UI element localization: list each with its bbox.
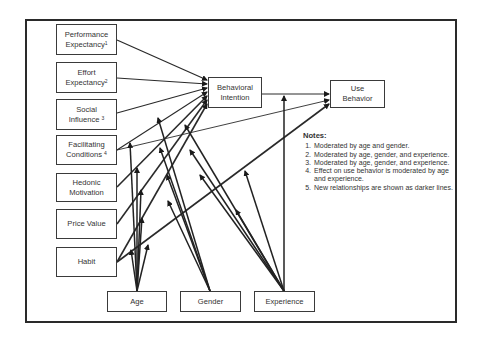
footnote-marker: 2 [105,78,108,84]
label: Habit [78,257,96,267]
note-item: Moderated by age, gender, and experience… [313,151,453,159]
label-line-1: Facilitating [68,140,104,149]
label-line-2: Intention [220,93,249,102]
label: Price Value [67,219,105,229]
label-line-2: Influence [69,115,100,124]
label: Gender [198,297,223,307]
moderator-gender: Gender [180,291,241,312]
note-item: Moderated by age and gender. [313,142,453,150]
label: Experience [266,297,304,307]
footnote-marker: 1 [105,40,108,46]
moderator-age: Age [107,291,167,312]
label-line-2: Behavior [343,94,373,103]
outcome-behavioral-intention: BehavioralIntention [208,77,262,108]
note-item: New relationships are shown as darker li… [313,184,453,192]
label-line-2: Expectancy [65,78,104,87]
label-line-2: Conditions [66,150,102,159]
construct-habit: Habit [56,247,117,277]
label-line-2: Expectancy [65,40,104,49]
label-line-1: Hedonic [73,178,101,187]
notes-list: Moderated by age and gender. Moderated b… [303,142,453,192]
construct-facilitating-conditions: FacilitatingConditions 4 [56,135,117,165]
label-line-1: Effort [77,68,95,77]
label-line-1: Social [76,105,97,114]
note-item: Moderated by age, gender, and experience… [313,159,453,167]
notes-legend: Notes: Moderated by age and gender. Mode… [303,132,453,192]
label: Age [130,297,144,307]
label-line-1: Behavioral [217,83,253,92]
label-line-2: Motivation [69,188,104,197]
label-line-1: Use [351,84,365,93]
construct-price-value: Price Value [56,209,117,239]
footnote-marker: 4 [104,150,107,156]
construct-hedonic-motivation: HedonicMotivation [56,173,117,202]
moderator-experience: Experience [254,291,315,312]
construct-performance-expectancy: PerformanceExpectancy1 [56,24,117,55]
construct-social-influence: SocialInfluence 3 [56,99,117,130]
label-line-1: Performance [65,30,108,39]
outcome-use-behavior: UseBehavior [330,80,385,108]
construct-effort-expectancy: EffortExpectancy2 [56,62,117,93]
footnote-marker: 3 [102,115,105,121]
note-item: Effect on use behavior is moderated by a… [313,167,453,184]
notes-title: Notes: [303,132,453,140]
